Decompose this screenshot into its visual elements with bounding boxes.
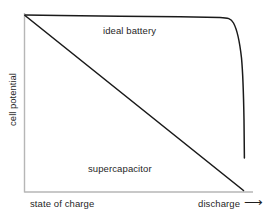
figure-container: ideal battery supercapacitor state of ch… xyxy=(0,0,272,220)
x-axis-label-left: state of charge xyxy=(30,198,94,209)
supercapacitor-annotation: supercapacitor xyxy=(88,163,152,174)
y-axis-label: cell potential xyxy=(7,57,18,143)
ideal-battery-curve xyxy=(25,15,244,158)
right-arrow-icon: ⟶ xyxy=(244,198,263,207)
discharge-text: discharge xyxy=(198,198,240,209)
x-axis-label-right: discharge ⟶ xyxy=(198,198,263,209)
ideal-battery-annotation: ideal battery xyxy=(103,25,156,36)
